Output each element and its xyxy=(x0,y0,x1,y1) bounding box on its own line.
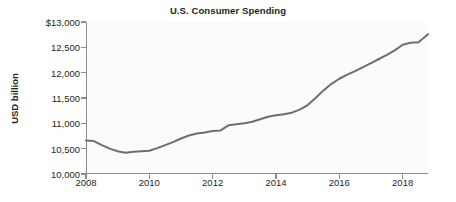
y-tick-12500 xyxy=(81,47,86,48)
x-tick-label-2008: 2008 xyxy=(56,177,116,188)
chart-figure: U.S. Consumer Spending USD billion 10,00… xyxy=(0,0,456,202)
y-tick-13000 xyxy=(81,21,86,22)
x-tick-label-2018: 2018 xyxy=(373,177,433,188)
y-tick-10500 xyxy=(81,148,86,149)
y-tick-label-11000: 11,000 xyxy=(10,118,80,129)
y-tick-label-11500: 11,500 xyxy=(10,93,80,104)
y-tick-12000 xyxy=(81,72,86,73)
y-tick-11500 xyxy=(81,97,86,98)
x-tick-label-2012: 2012 xyxy=(183,177,243,188)
x-tick-label-2010: 2010 xyxy=(119,177,179,188)
y-tick-label-12000: 12,000 xyxy=(10,67,80,78)
plot-wrapper: 10,00010,50011,00011,50012,00012,500$13,… xyxy=(0,0,456,202)
y-tick-label-12500: 12,500 xyxy=(10,42,80,53)
y-tick-label-10500: 10,500 xyxy=(10,143,80,154)
x-tick-label-2014: 2014 xyxy=(246,177,306,188)
x-tick-label-2016: 2016 xyxy=(309,177,369,188)
plot-area xyxy=(86,22,428,174)
y-tick-11000 xyxy=(81,123,86,124)
y-tick-label-13000: $13,000 xyxy=(10,17,80,28)
